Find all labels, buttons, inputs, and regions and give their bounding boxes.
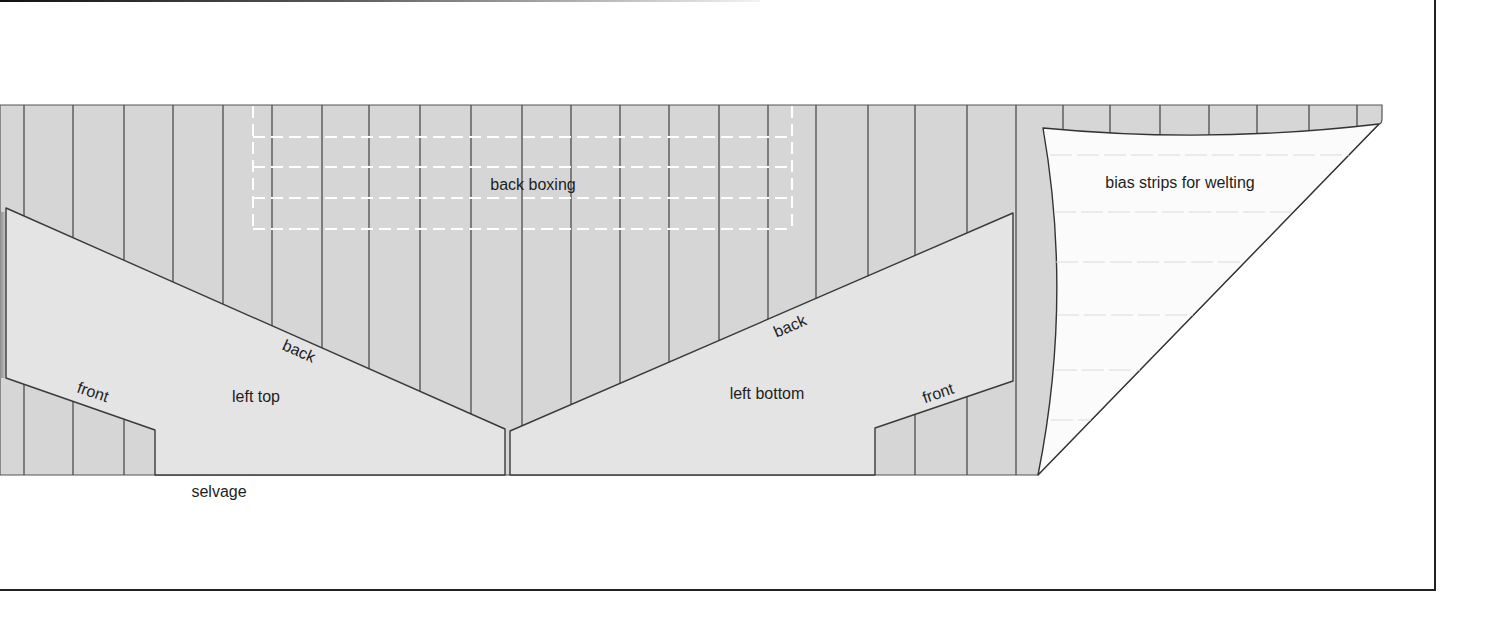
bias-strips-piece: bias strips for welting <box>1038 124 1379 475</box>
back-boxing-label: back boxing <box>490 176 575 193</box>
page-gutter-shadow <box>0 212 6 378</box>
selvage-label: selvage <box>191 483 246 500</box>
fabric-cutting-layout-diagram: back boxing left top back front left bot… <box>0 0 1485 622</box>
bias-strips-label: bias strips for welting <box>1105 174 1254 191</box>
frame-top-rule <box>0 0 760 2</box>
left-top-label: left top <box>232 388 280 405</box>
left-bottom-label: left bottom <box>730 385 805 402</box>
